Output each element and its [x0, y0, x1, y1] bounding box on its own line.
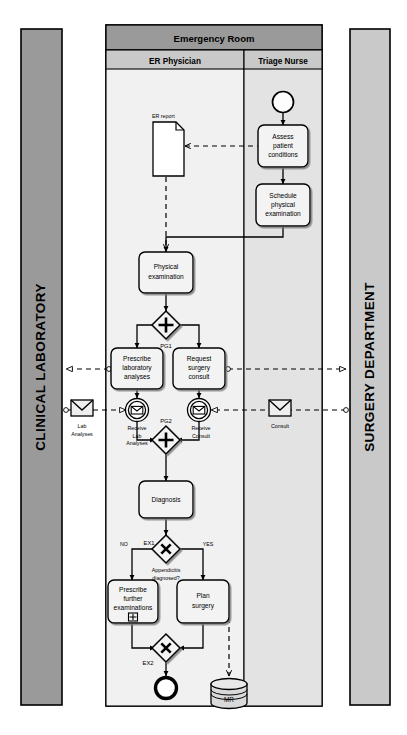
gateway-ex1-question-line-1: Appendicitis: [152, 567, 181, 573]
envelope-icon: [131, 406, 143, 414]
message-lab-analyses-label-2: Analyses: [71, 431, 93, 437]
task-schedule-line-1: Schedule: [269, 192, 297, 199]
task-assess-line-1: Assess: [272, 133, 294, 140]
gateway-pg2-label: PG2: [160, 418, 172, 424]
receive-consult-label-1: Receive: [191, 425, 210, 431]
task-prescribe-further-line-3: examinations: [114, 604, 154, 611]
bpmn-canvas: CLINICAL LABORATORY SURGERY DEPARTMENT E…: [0, 0, 407, 735]
task-prescribe-lab-line-2: laboratory: [122, 364, 152, 372]
receive-lab-label-2: Lab: [133, 433, 142, 439]
task-physical-line-2: examination: [148, 273, 184, 280]
message-lab-analyses[interactable]: Lab Analyses: [71, 400, 93, 437]
task-assess-line-3: conditions: [268, 151, 298, 158]
message-lab-analyses-label-1: Lab: [78, 423, 87, 429]
task-physical-examination[interactable]: Physical examination: [139, 252, 193, 293]
end-event[interactable]: [156, 678, 177, 699]
task-diagnosis[interactable]: Diagnosis: [139, 481, 193, 518]
task-prescribe-further-line-2: further: [123, 595, 143, 602]
receive-lab-label-1: Receive: [127, 425, 146, 431]
task-prescribe-further-examinations[interactable]: Prescribe further examinations: [108, 580, 158, 623]
task-request-consult-line-1: Request: [187, 355, 212, 363]
task-schedule-line-2: physical: [271, 201, 295, 209]
task-prescribe-lab-line-1: Prescribe: [123, 355, 151, 362]
data-store-mr[interactable]: MR: [211, 679, 247, 709]
task-assess-line-2: patient: [273, 142, 293, 150]
task-plan-surgery[interactable]: Plan surgery: [177, 580, 229, 623]
pool-clinical-laboratory-label: CLINICAL LABORATORY: [33, 283, 48, 451]
task-prescribe-further-line-1: Prescribe: [119, 586, 147, 593]
bpmn-diagram: CLINICAL LABORATORY SURGERY DEPARTMENT E…: [0, 0, 407, 735]
task-schedule-physical-examination[interactable]: Schedule physical examination: [256, 184, 310, 226]
envelope-icon: [193, 406, 205, 414]
task-schedule-line-3: examination: [265, 210, 301, 217]
task-request-consult-line-3: consult: [189, 373, 210, 380]
pool-surgery-department-label: SURGERY DEPARTMENT: [362, 282, 377, 452]
flow-label-yes: YES: [203, 541, 214, 547]
message-consult[interactable]: Consult: [269, 400, 291, 429]
task-assess-patient-conditions[interactable]: Assess patient conditions: [258, 125, 308, 167]
task-request-surgery-consult[interactable]: Request surgery consult: [173, 348, 225, 389]
task-physical-line-1: Physical: [154, 263, 179, 271]
message-consult-label: Consult: [271, 423, 289, 429]
lane-er-physician-label: ER Physician: [149, 57, 201, 66]
task-prescribe-laboratory-analyses[interactable]: Prescribe laboratory analyses: [111, 348, 163, 389]
flow-label-no: NO: [120, 541, 128, 547]
gateway-ex1-label: EX1: [144, 540, 155, 546]
pool-emergency-room-title: Emergency Room: [174, 33, 255, 44]
task-diagnosis-label: Diagnosis: [152, 496, 182, 504]
pool-surgery-department[interactable]: SURGERY DEPARTMENT: [350, 29, 390, 705]
task-prescribe-lab-line-3: analyses: [124, 373, 151, 381]
pool-clinical-laboratory[interactable]: CLINICAL LABORATORY: [21, 29, 62, 705]
lane-triage-nurse-label: Triage Nurse: [258, 57, 308, 66]
task-request-consult-line-2: surgery: [188, 364, 211, 372]
data-store-mr-label: MR: [224, 696, 234, 703]
start-event[interactable]: [273, 92, 294, 113]
receive-consult-label-2: Consult: [192, 433, 210, 439]
gateway-pg1-label: PG1: [160, 343, 172, 349]
receive-lab-label-3: Analyses: [126, 440, 148, 446]
gateway-ex2-label: EX2: [143, 660, 154, 666]
task-plan-surgery-line-1: Plan: [196, 592, 210, 599]
data-object-er-report-label: ER report: [152, 113, 175, 119]
task-plan-surgery-line-2: surgery: [192, 602, 215, 610]
gateway-ex1-question-line-2: diagnosed?: [152, 575, 179, 581]
